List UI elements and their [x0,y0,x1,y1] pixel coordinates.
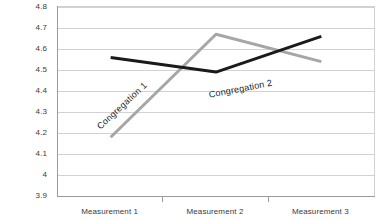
y-axis-tick-4.6: 4.6 [0,45,52,53]
y-axis-tick-4.4: 4.4 [0,87,52,95]
series-lines [58,7,374,196]
line-chart: 4.84.74.64.54.44.34.24.143.9 Congregatio… [0,0,387,221]
x-axis-label-3: Measurement 3 [268,207,373,216]
y-axis-tick-4.2: 4.2 [0,129,52,137]
plot-area [58,7,374,196]
x-axis-label-2: Measurement 2 [162,207,267,216]
y-axis-tick-4.1: 4.1 [0,150,52,158]
x-axis-label-1: Measurement 1 [57,207,162,216]
x-axis-tick-separator [268,197,269,202]
y-axis-tick-4: 4 [0,171,52,179]
y-axis-tick-4.7: 4.7 [0,24,52,32]
plot-border-right [374,6,375,197]
x-axis-tick-separator [162,197,163,202]
y-axis-tick-labels: 4.84.74.64.54.44.34.24.143.9 [0,0,52,221]
y-axis-tick-4.5: 4.5 [0,66,52,74]
y-axis-tick-4.3: 4.3 [0,108,52,116]
y-axis-tick-3.9: 3.9 [0,192,52,200]
x-axis-category-labels: Measurement 1Measurement 2Measurement 3 [57,197,375,221]
y-axis-tick-4.8: 4.8 [0,3,52,11]
